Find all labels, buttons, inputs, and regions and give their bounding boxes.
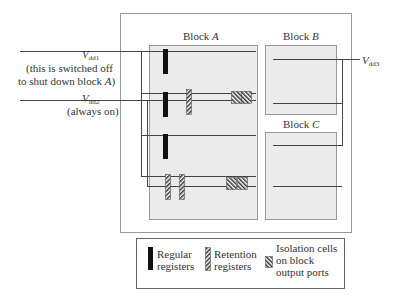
legend-regular-swatch [148,247,153,270]
legend-isolation-label: Isolation cellson blockoutput ports [276,242,337,278]
isolation-cell [238,178,248,190]
vdd2-note: (always on) [67,105,119,117]
regular-register [163,49,168,74]
block-a-title: Block A [183,30,219,42]
vdd1-note-line2: to shut down block A) [18,75,115,87]
vdd1-note-line1: (this is switched off [26,62,113,74]
vdd3-label: Vdd3 [362,54,379,70]
isolation-cell [227,178,237,190]
block-b [266,46,337,115]
regular-register [163,134,168,159]
legend-regular-label: Regularregisters [157,248,194,272]
regular-register [163,92,168,117]
isolation-cell [232,92,242,104]
legend-isolation-swatch [266,257,273,268]
retention-register [166,175,171,200]
isolation-cell [242,92,252,104]
power-domain-diagram [0,0,398,303]
legend-retention-label: Retentionregisters [214,248,257,272]
block-c-title: Block C [283,118,319,130]
legend-retention-swatch [206,248,211,271]
retention-register [187,90,192,115]
retention-register [180,175,185,200]
block-b-title: Block B [283,30,319,42]
